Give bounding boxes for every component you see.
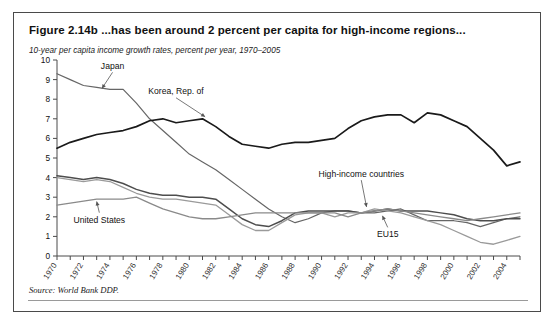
source-divider: [28, 300, 528, 301]
x-tick-label: 2002: [465, 261, 482, 281]
x-tick-label: 2000: [438, 261, 455, 281]
data-series-group: [57, 74, 520, 245]
y-tick-label: 8: [45, 94, 50, 104]
chart-annotation-label: High-income countries: [319, 169, 405, 179]
chart-annotation-label: Korea, Rep. of: [148, 86, 204, 96]
chart-annotation-label: United States: [74, 215, 126, 225]
x-tick-label: 1990: [306, 261, 323, 281]
source-note: Source: World Bank DDP.: [29, 285, 119, 295]
y-tick-label: 5: [45, 153, 50, 163]
x-tick-label: 2004: [491, 261, 508, 281]
series-line-japan: [57, 74, 520, 227]
x-tick-label: 1998: [412, 261, 429, 281]
line-chart: 012345678910 197019721974197619781980198…: [14, 13, 542, 313]
y-tick-label: 2: [45, 212, 50, 222]
chart-annotation-label: Japan: [101, 61, 125, 71]
annotation-arrowhead: [102, 84, 106, 88]
x-tick-label: 1992: [333, 261, 350, 281]
x-tick-label: 1984: [227, 261, 244, 281]
series-line-eu15: [57, 178, 520, 245]
x-tick-label: 1970: [42, 261, 59, 281]
y-tick-label: 1: [45, 231, 50, 241]
chart-annotation-label: EU15: [377, 229, 399, 239]
x-tick-label: 1972: [68, 261, 85, 281]
y-tick-label: 10: [41, 55, 51, 65]
x-axis: 1970197219741976197819801982198419861988…: [42, 256, 520, 281]
annotation-arrowhead: [201, 113, 205, 117]
annotation-arrowhead: [96, 202, 100, 206]
series-line-korea-rep-of: [57, 113, 520, 166]
y-tick-label: 0: [45, 251, 50, 261]
x-tick-label: 1974: [95, 261, 112, 281]
annotation-leader-line: [361, 180, 366, 207]
x-tick-label: 1994: [359, 261, 376, 281]
x-tick-label: 1978: [147, 261, 164, 281]
x-tick-label: 1982: [200, 261, 217, 281]
x-tick-label: 1988: [280, 261, 297, 281]
figure-card: Figure 2.14b ...has been around 2 percen…: [13, 12, 541, 312]
annotation-leader-line: [176, 98, 205, 117]
y-tick-label: 3: [45, 192, 50, 202]
chart-plot-area: 012345678910 197019721974197619781980198…: [14, 13, 542, 313]
x-tick-label: 1976: [121, 261, 138, 281]
x-tick-label: 1986: [253, 261, 270, 281]
x-tick-label: 1980: [174, 261, 191, 281]
y-axis: 012345678910: [41, 55, 57, 261]
annotation-arrowhead: [364, 203, 368, 207]
y-tick-label: 9: [45, 75, 50, 85]
y-tick-label: 7: [45, 114, 50, 124]
x-tick-label: 1996: [386, 261, 403, 281]
y-tick-label: 4: [45, 173, 50, 183]
y-tick-label: 6: [45, 133, 50, 143]
